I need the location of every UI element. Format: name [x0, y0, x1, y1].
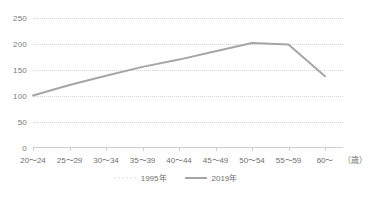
x-axis-tick-mark	[33, 148, 34, 151]
x-axis-tick-label: 30〜34	[93, 154, 118, 165]
dotted-line-marker-icon	[114, 177, 136, 179]
legend-item-2019[interactable]: 2019年	[185, 172, 238, 183]
x-axis-tick-label: 50〜54	[239, 154, 264, 165]
legend-item-1995[interactable]: 1995年	[114, 172, 167, 183]
x-axis-tick-mark	[70, 148, 71, 151]
y-axis-tick-label: 250	[13, 14, 27, 23]
y-axis-tick-label: 150	[13, 66, 27, 75]
x-axis-tick-mark	[289, 148, 290, 151]
x-axis-tick-mark	[325, 148, 326, 151]
x-axis-tick-mark	[216, 148, 217, 151]
x-axis-unit-label: （歳）	[343, 154, 367, 165]
x-axis-tick-mark	[143, 148, 144, 151]
x-axis-tick-label: 45〜49	[203, 154, 228, 165]
x-axis-tick-label: 35〜39	[130, 154, 155, 165]
legend-label-2019: 2019年	[212, 172, 238, 183]
x-axis-tick-mark	[252, 148, 253, 151]
x-axis-tick-label: 55〜59	[276, 154, 301, 165]
y-axis-tick-label: 50	[18, 118, 27, 127]
solid-line-marker-icon	[185, 177, 207, 179]
series-line-2019年	[33, 43, 325, 96]
plot-area: 050100150200250 20〜2425〜2930〜3435〜3940〜4…	[33, 18, 343, 148]
x-axis-tick-label: 25〜29	[57, 154, 82, 165]
y-axis-tick-label: 100	[13, 92, 27, 101]
y-axis-tick-label: 0	[22, 144, 27, 153]
series-lines	[33, 18, 343, 148]
chart-legend: 1995年 2019年	[0, 172, 351, 183]
x-axis-tick-label: 60〜	[317, 154, 334, 165]
y-axis-tick-label: 200	[13, 40, 27, 49]
x-axis-tick-mark	[106, 148, 107, 151]
legend-label-1995: 1995年	[141, 172, 167, 183]
x-axis-tick-label: 20〜24	[20, 154, 45, 165]
x-axis-tick-label: 40〜44	[166, 154, 191, 165]
x-axis-tick-mark	[179, 148, 180, 151]
